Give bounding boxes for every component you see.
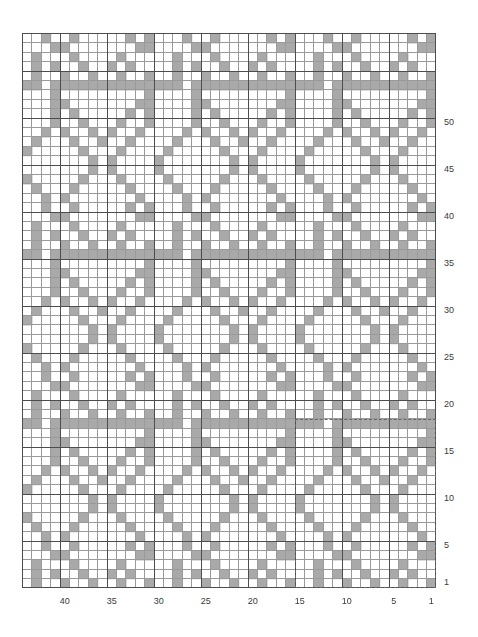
knitting-chart: 50454035302520151051 4035302520151051 [0, 0, 478, 637]
column-label-1: 1 [429, 597, 434, 606]
row-label-35: 35 [444, 259, 454, 268]
row-label-20: 20 [444, 400, 454, 409]
column-label-20: 20 [248, 597, 258, 606]
column-label-40: 40 [60, 597, 70, 606]
column-label-5: 5 [391, 597, 396, 606]
row-label-10: 10 [444, 494, 454, 503]
row-label-5: 5 [444, 541, 449, 550]
row-label-25: 25 [444, 353, 454, 362]
row-label-45: 45 [444, 165, 454, 174]
column-label-35: 35 [107, 597, 117, 606]
column-label-25: 25 [201, 597, 211, 606]
row-label-30: 30 [444, 306, 454, 315]
row-label-50: 50 [444, 118, 454, 127]
row-label-1: 1 [444, 578, 449, 587]
row-label-15: 15 [444, 447, 454, 456]
column-label-30: 30 [154, 597, 164, 606]
row-label-40: 40 [444, 212, 454, 221]
chart-grid[interactable] [22, 33, 436, 588]
column-label-15: 15 [295, 597, 305, 606]
column-label-10: 10 [342, 597, 352, 606]
chart-grid-canvas[interactable] [22, 33, 436, 588]
